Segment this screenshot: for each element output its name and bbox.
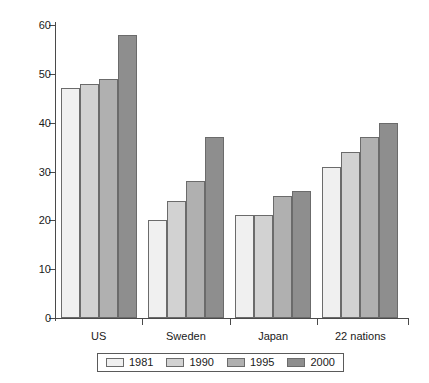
- x-axis-group-separator-tick: [142, 318, 143, 325]
- legend-item[interactable]: 1990: [166, 357, 213, 368]
- bar: [118, 35, 137, 318]
- bar: [205, 137, 224, 318]
- bar: [322, 167, 341, 318]
- bar: [254, 215, 273, 318]
- bar: [80, 84, 99, 318]
- y-tick-label: 30: [39, 166, 51, 177]
- bar: [379, 123, 398, 318]
- y-tick-label: 20: [39, 215, 51, 226]
- x-axis-category-label: US: [91, 330, 106, 342]
- x-axis-group-separator-tick: [317, 318, 318, 325]
- legend-item[interactable]: 2000: [287, 357, 334, 368]
- legend-swatch: [287, 358, 305, 367]
- y-tick-label: 0: [45, 313, 51, 324]
- legend-swatch: [227, 358, 245, 367]
- y-tick-label: 60: [39, 20, 51, 31]
- bar: [167, 201, 186, 318]
- legend-swatch: [106, 358, 124, 367]
- bar: [292, 191, 311, 318]
- y-tick-label: 40: [39, 117, 51, 128]
- legend-item[interactable]: 1995: [227, 357, 274, 368]
- bar: [61, 88, 80, 318]
- bar: [360, 137, 379, 318]
- bar: [341, 152, 360, 318]
- x-axis-line: [55, 318, 408, 319]
- x-axis-category-label: Japan: [258, 330, 288, 342]
- legend-label: 2000: [310, 357, 334, 368]
- legend-label: 1990: [189, 357, 213, 368]
- x-axis-group-separator-tick: [230, 318, 231, 325]
- x-axis-category-label: 22 nations: [335, 330, 386, 342]
- bar: [148, 220, 167, 318]
- y-tick-label: 50: [39, 68, 51, 79]
- bar: [235, 215, 254, 318]
- legend-label: 1995: [250, 357, 274, 368]
- legend-item[interactable]: 1981: [106, 357, 153, 368]
- plot-area: 0102030405060: [55, 25, 404, 318]
- legend-swatch: [166, 358, 184, 367]
- x-axis-group-separator-tick: [408, 318, 409, 325]
- bar: [186, 181, 205, 318]
- bar: [99, 79, 118, 318]
- chart-legend: 1981199019952000: [97, 353, 344, 372]
- x-axis-category-label: Sweden: [166, 330, 206, 342]
- y-tick-label: 10: [39, 264, 51, 275]
- bar: [273, 196, 292, 318]
- legend-label: 1981: [129, 357, 153, 368]
- bar-chart: 0102030405060 USSwedenJapan22 nations 19…: [0, 0, 429, 383]
